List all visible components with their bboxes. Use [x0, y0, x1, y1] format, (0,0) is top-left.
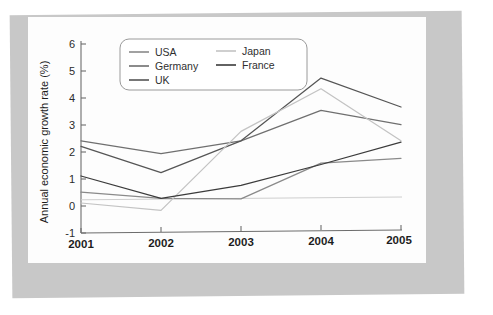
x-tick-label: 2002 [148, 237, 174, 249]
series-line-france [81, 142, 401, 198]
legend-label-japan: Japan [242, 45, 271, 57]
x-tick-label: 2001 [68, 238, 94, 250]
chart-svg: Annual economic growth rate (%) 6 5 4 3 … [28, 17, 426, 263]
legend-label-france: France [242, 59, 275, 71]
x-tick-label: 2005 [386, 234, 412, 246]
y-axis-ticks [81, 44, 86, 233]
legend-label-usa: USA [155, 46, 177, 58]
series-line-usa [81, 158, 401, 199]
series-line-uk [81, 78, 401, 173]
y-tick-label: 4 [69, 92, 75, 104]
series-group [81, 78, 401, 210]
y-tick-label: 5 [69, 65, 75, 77]
legend-label-germany: Germany [155, 60, 199, 72]
x-tick-label: 2003 [228, 236, 254, 248]
legend-label-uk: UK [155, 74, 170, 86]
x-tick-labels: 2001 2002 2003 2004 2005 [68, 234, 412, 250]
y-tick-label: 1 [69, 173, 75, 185]
legend-box [120, 39, 307, 90]
chart-legend[interactable]: USA Japan Germany France UK [120, 39, 307, 90]
series-line-japan [81, 89, 401, 211]
line-chart: Annual economic growth rate (%) 6 5 4 3 … [28, 17, 426, 263]
chart-panel: Annual economic growth rate (%) 6 5 4 3 … [28, 17, 426, 263]
y-axis-title: Annual economic growth rate (%) [38, 61, 50, 224]
y-tick-label: 2 [69, 146, 75, 158]
y-tick-label: 3 [69, 119, 75, 131]
y-tick-labels: 6 5 4 3 2 1 0 -1 [65, 38, 75, 239]
screenshot-page: Annual economic growth rate (%) 6 5 4 3 … [0, 0, 493, 315]
y-tick-label: 6 [69, 38, 75, 50]
x-tick-label: 2004 [308, 235, 334, 247]
y-tick-label: 0 [69, 200, 75, 212]
